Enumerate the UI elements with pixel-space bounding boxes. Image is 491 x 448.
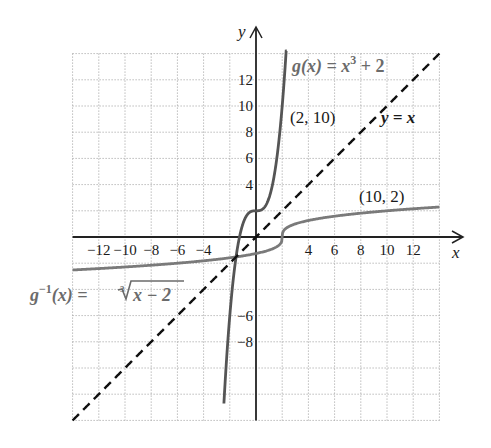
point-label-10-2: (10, 2): [359, 187, 404, 206]
y-tick-label: 6: [246, 150, 254, 166]
ginv-exponent: −1: [39, 282, 52, 296]
y-tick-label: −8: [237, 334, 253, 350]
g-rest: (x) = x: [301, 56, 350, 77]
x-tick-label: −6: [169, 242, 185, 258]
radicand: x − 2: [132, 285, 171, 305]
x-tick-label: 12: [406, 242, 421, 258]
chart: −12−10−8−6−446810121210864−6−8 y x g(x) …: [0, 0, 491, 448]
x-tick-label: 10: [380, 242, 395, 258]
x-tick-label: 4: [305, 242, 313, 258]
y-tick-label: 4: [246, 177, 254, 193]
y-tick-label: −6: [237, 308, 253, 324]
g-tail: + 2: [356, 56, 384, 76]
x-tick-label: −4: [196, 242, 212, 258]
x-tick-label: 8: [357, 242, 365, 258]
ginv-name: g: [29, 285, 39, 305]
x-tick-label: −8: [143, 242, 159, 258]
g-inverse-label: g−1(x) =: [29, 282, 88, 306]
identity-line-label: y = x: [379, 108, 416, 127]
x-axis-label: x: [451, 243, 460, 262]
y-tick-label: 12: [238, 72, 253, 88]
y-tick-label: 10: [238, 98, 253, 114]
x-tick-label: −10: [113, 242, 136, 258]
g-function-label: g(x) = x3 + 2: [291, 53, 385, 77]
point-label-2-10: (2, 10): [290, 108, 335, 127]
x-tick-label: −12: [87, 242, 110, 258]
y-axis-label: y: [236, 22, 246, 41]
g-name: g: [291, 56, 301, 76]
y-tick-label: 8: [246, 124, 254, 140]
x-tick-label: 6: [331, 242, 339, 258]
ginv-rest: (x) =: [52, 285, 88, 306]
